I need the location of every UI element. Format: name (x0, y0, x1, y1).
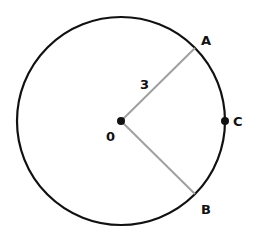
circle-diagram: A B C 0 3 (0, 0, 255, 238)
label-a: A (201, 33, 211, 48)
radius-ob (121, 121, 195, 194)
point-c (221, 117, 229, 125)
label-radius: 3 (140, 77, 149, 92)
label-b: B (201, 202, 211, 217)
center-point (117, 117, 125, 125)
label-c: C (233, 114, 243, 129)
label-center: 0 (106, 129, 115, 144)
radius-oa (121, 48, 195, 121)
